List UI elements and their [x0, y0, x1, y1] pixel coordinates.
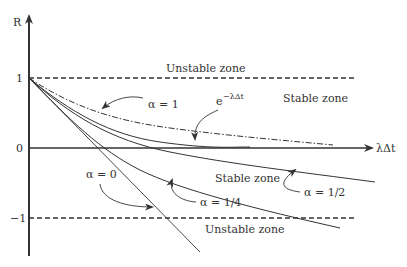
label-exact-exponential: e — [216, 95, 223, 108]
label-alpha-0: α = 0 — [86, 168, 117, 181]
label-alpha-1: α = 1 — [148, 98, 179, 111]
unstable-zone-top-label: Unstable zone — [166, 62, 246, 75]
curve-exact-exponential — [29, 78, 250, 147]
stable-zone-upper-label: Stable zone — [283, 92, 348, 105]
label-exact-exponent: −λΔt — [223, 92, 245, 101]
label-alpha-quarter: α = 1/4 — [200, 196, 241, 209]
arrow-alpha-quarter — [171, 180, 196, 202]
y-tick-0: 0 — [16, 142, 23, 155]
arrow-alpha-half — [284, 170, 300, 192]
stable-zone-lower-label: Stable zone — [215, 172, 280, 185]
curve-alpha-1 — [29, 78, 333, 145]
y-axis-label: R — [13, 16, 22, 29]
x-axis-label: λΔt — [376, 142, 396, 155]
label-alpha-half: α = 1/2 — [304, 186, 345, 199]
stability-diagram: R λΔt 1 0 −1 Unstable zone Stable zone S… — [0, 0, 407, 267]
unstable-zone-bottom-label: Unstable zone — [205, 223, 285, 236]
y-tick-1: 1 — [16, 72, 23, 85]
arrow-alpha-1 — [103, 97, 143, 108]
y-tick-minus-1: −1 — [10, 212, 26, 225]
arrow-exact-exponential — [195, 110, 218, 139]
